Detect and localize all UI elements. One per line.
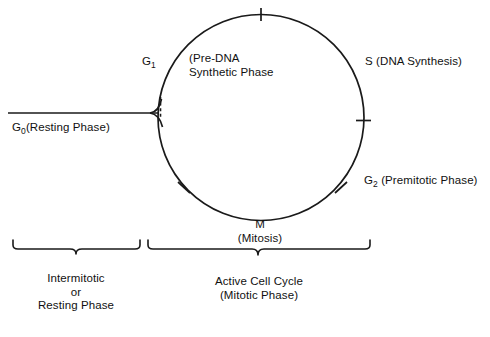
label-g2-subscript: 2 (373, 179, 378, 189)
label-g2-phase: G2 (Premitotic Phase) (364, 174, 478, 188)
label-g0-text: G (12, 121, 21, 133)
cell-cycle-circle (158, 15, 364, 221)
label-mitosis: M (Mitosis) (196, 218, 324, 245)
label-intermitotic-resting-phase: Intermitotic or Resting Phase (6, 272, 146, 313)
label-g2-text: G (364, 174, 373, 186)
intermitotic-bracket (13, 240, 140, 254)
label-s-phase: S (DNA Synthesis) (365, 55, 462, 69)
lower-left-tick-icon (178, 182, 190, 193)
label-g1-subscript: 1 (151, 60, 156, 70)
label-pre-dna-synthetic-phase: (Pre-DNA Synthetic Phase (189, 52, 274, 79)
label-g0-rest: (Resting Phase) (26, 121, 110, 133)
label-g0-resting-phase: G0(Resting Phase) (12, 121, 110, 135)
label-active-cell-cycle: Active Cell Cycle (Mitotic Phase) (150, 275, 368, 302)
label-g0-subscript: 0 (21, 126, 26, 136)
label-g1: G1 (142, 55, 156, 69)
label-g1-text: G (142, 55, 151, 67)
label-g2-rest: (Premitotic Phase) (378, 174, 478, 186)
cell-cycle-diagram: G1 (Pre-DNA Synthetic Phase S (DNA Synth… (0, 0, 490, 337)
